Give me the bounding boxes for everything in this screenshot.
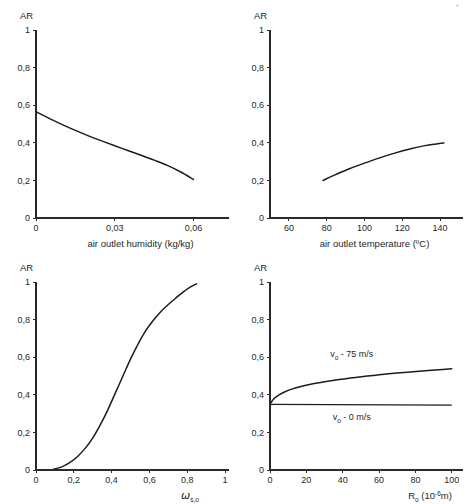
y-axis-title: AR bbox=[20, 262, 33, 273]
x-tick-label: 0,2 bbox=[68, 475, 81, 485]
y-axis-title: AR bbox=[254, 10, 267, 21]
y-axis-title: AR bbox=[254, 262, 267, 273]
label-v0: vo - 0 m/s bbox=[333, 412, 372, 424]
figure-four-panel-chart: 00,20,40,60,8100,030,06ARair outlet humi… bbox=[0, 0, 467, 504]
x-tick-label: 140 bbox=[433, 223, 448, 233]
x-tick-label: 0 bbox=[33, 223, 38, 233]
x-tick-label: 60 bbox=[284, 223, 294, 233]
x-tick-label: 0,6 bbox=[143, 475, 156, 485]
y-tick-label: 0,8 bbox=[17, 63, 30, 73]
y-tick-label: 0 bbox=[25, 465, 30, 475]
x-tick-label: 80 bbox=[322, 223, 332, 233]
y-tick-label: 0,4 bbox=[17, 390, 30, 400]
x-tick-label: 120 bbox=[395, 223, 410, 233]
curve-vo-0-m-s bbox=[270, 404, 452, 405]
y-tick-label: 0,8 bbox=[17, 315, 30, 325]
y-tick-label: 1 bbox=[259, 277, 264, 287]
y-axis-title: AR bbox=[20, 10, 33, 21]
y-tick-label: 1 bbox=[25, 25, 30, 35]
x-tick-label: 40 bbox=[338, 475, 348, 485]
y-tick-label: 0,6 bbox=[17, 352, 30, 362]
chart-panel-omega-s-o: 00,20,40,60,8100,20,40,60,81ARωs,o bbox=[0, 252, 233, 504]
y-tick-label: 1 bbox=[259, 25, 264, 35]
y-tick-label: 0 bbox=[259, 465, 264, 475]
chart-svg-omega-s-o: 00,20,40,60,8100,20,40,60,81ARωs,o bbox=[0, 252, 233, 504]
y-tick-label: 0,2 bbox=[17, 428, 30, 438]
label-v75: vo - 75 m/s bbox=[330, 349, 374, 361]
x-tick-label: 1 bbox=[222, 475, 227, 485]
curve-ar-vs-temperature bbox=[323, 143, 444, 180]
y-tick-label: 0,4 bbox=[17, 138, 30, 148]
y-tick-label: 0,2 bbox=[251, 428, 264, 438]
x-tick-label: 0,06 bbox=[185, 223, 203, 233]
x-axis-title: air outlet temperature (ºC) bbox=[320, 238, 430, 249]
y-tick-label: 0,8 bbox=[251, 63, 264, 73]
x-tick-label: 0 bbox=[267, 475, 272, 485]
chart-panel-air-outlet-temperature: 00,20,40,60,816080100120140ARair outlet … bbox=[234, 0, 467, 252]
x-tick-label: 0,03 bbox=[106, 223, 124, 233]
y-tick-label: 0,4 bbox=[251, 390, 264, 400]
y-tick-label: 0 bbox=[25, 213, 30, 223]
x-axis-title: air outlet humidity (kg/kg) bbox=[87, 238, 193, 249]
y-tick-label: 0,6 bbox=[17, 100, 30, 110]
x-tick-label: 20 bbox=[301, 475, 311, 485]
y-tick-label: 0 bbox=[259, 213, 264, 223]
x-tick-label: 0,8 bbox=[181, 475, 194, 485]
chart-svg-air-outlet-humidity: 00,20,40,60,8100,030,06ARair outlet humi… bbox=[0, 0, 233, 252]
x-tick-label: 0,4 bbox=[105, 475, 118, 485]
x-axis-title: ωs,o bbox=[181, 489, 199, 503]
x-tick-label: 0 bbox=[33, 475, 38, 485]
chart-panel-droplet-radius: 00,20,40,60,81020406080100ARRo (10-6m)vo… bbox=[234, 252, 467, 504]
curve-vo-75-m-s bbox=[270, 369, 452, 405]
y-tick-label: 0,6 bbox=[251, 352, 264, 362]
chart-svg-droplet-radius: 00,20,40,60,81020406080100ARRo (10-6m)vo… bbox=[234, 252, 467, 504]
x-axis-title: Ro (10-6m) bbox=[408, 490, 452, 503]
x-tick-label: 80 bbox=[410, 475, 420, 485]
y-tick-label: 0,8 bbox=[251, 315, 264, 325]
chart-svg-air-outlet-temperature: 00,20,40,60,816080100120140ARair outlet … bbox=[234, 0, 467, 252]
y-tick-label: 0,2 bbox=[251, 176, 264, 186]
chart-panel-air-outlet-humidity: 00,20,40,60,8100,030,06ARair outlet humi… bbox=[0, 0, 233, 252]
x-tick-label: 100 bbox=[444, 475, 459, 485]
curve-ar-vs-humidity bbox=[36, 112, 194, 180]
y-tick-label: 0,6 bbox=[251, 100, 264, 110]
x-tick-label: 60 bbox=[374, 475, 384, 485]
curve-ar-vs-omega-s-o bbox=[54, 284, 197, 469]
y-tick-label: 1 bbox=[25, 277, 30, 287]
y-tick-label: 0,4 bbox=[251, 138, 264, 148]
x-tick-label: 100 bbox=[357, 223, 372, 233]
y-tick-label: 0,2 bbox=[17, 176, 30, 186]
